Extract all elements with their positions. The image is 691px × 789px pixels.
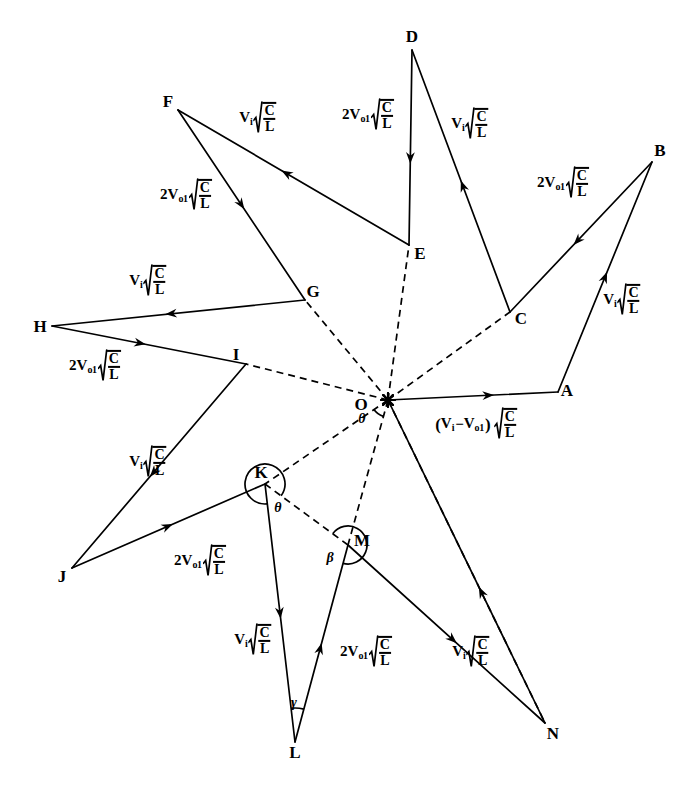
radical-c-over-l: CL xyxy=(144,446,167,478)
vector-edge-O-A xyxy=(388,392,558,400)
dashed-line-O-K xyxy=(265,400,388,484)
dashed-radial-lines xyxy=(246,245,545,723)
vertex-label-f: F xyxy=(163,93,173,110)
radical-c-over-l: CL xyxy=(494,408,517,440)
edge-label-lbl-bc: 2Vo1CL xyxy=(537,167,589,199)
edge-label-lbl-kl: ViCL xyxy=(234,624,271,656)
edge-label-lbl-mn: ViCL xyxy=(452,636,489,668)
subscript: i xyxy=(140,459,142,470)
vertex-label-b: B xyxy=(654,142,665,159)
coefficient-two_v_o1: 2Vo1 xyxy=(69,358,97,375)
radical-c-over-l: CL xyxy=(369,636,392,668)
vertex-label-n: N xyxy=(547,725,559,742)
radicand-denominator: L xyxy=(477,654,488,668)
term-vi: Vi xyxy=(441,416,454,433)
coefficient-two_v_o1: 2Vo1 xyxy=(174,553,202,570)
vertex-label-c: C xyxy=(515,310,527,327)
subscript: o1 xyxy=(178,192,187,203)
radical-sign-icon xyxy=(618,284,627,316)
coefficient-v_i: Vi xyxy=(452,644,465,661)
radicand-denominator: L xyxy=(379,654,390,668)
vertex-label-m: M xyxy=(354,532,370,549)
radical-sign-icon xyxy=(144,265,153,297)
vertex-label-k: K xyxy=(254,464,267,481)
vertex-label-d: D xyxy=(406,28,418,45)
vector-edge-G-H xyxy=(52,300,305,326)
radicand-numerator: C xyxy=(199,181,211,195)
arrowhead-H-I xyxy=(133,338,146,349)
radical-c-over-l: CL xyxy=(618,284,641,316)
radical-sign-icon xyxy=(254,102,263,134)
diagram-canvas: ABCDEFGHIJKLMNO θθβγ ViCL2Vo1CLViCL2Vo1C… xyxy=(0,0,691,789)
vector-edge-N-O xyxy=(388,400,545,723)
angle-label-beta-at-M: β xyxy=(326,551,333,565)
angle-label-gamma-at-L: γ xyxy=(291,696,297,710)
radical-c-over-l: CL xyxy=(144,265,167,297)
arrowhead-E-F xyxy=(279,167,293,180)
coefficient-two_v_o1: 2Vo1 xyxy=(160,187,188,204)
radical-c-over-l: CL xyxy=(249,624,272,656)
radicand-denominator: L xyxy=(504,426,515,440)
radicand-denominator: L xyxy=(108,368,119,382)
vertex-label-g: G xyxy=(306,283,319,300)
vertex-label-a: A xyxy=(561,382,573,399)
vertex-label-l: L xyxy=(289,744,300,761)
radicand-numerator: C xyxy=(213,547,225,561)
radicand-numerator: C xyxy=(477,638,489,652)
coefficient-v_i: Vi xyxy=(129,454,142,471)
radicand-numerator: C xyxy=(379,638,391,652)
coefficient-two_v_o1: 2Vo1 xyxy=(537,175,565,192)
arc-theta-center xyxy=(374,410,384,417)
radical-c-over-l: CL xyxy=(189,179,212,211)
subscript: i xyxy=(614,297,616,308)
radical-c-over-l: CL xyxy=(566,167,589,199)
center-point-marker xyxy=(381,393,395,407)
radicand-numerator: C xyxy=(154,267,166,281)
radical-sign-icon xyxy=(371,99,380,131)
angle-label-theta-at-K: θ xyxy=(274,501,281,515)
center-dot xyxy=(385,397,390,402)
radicand-numerator: C xyxy=(381,101,393,115)
vertex-label-i: I xyxy=(233,346,240,363)
radical-c-over-l: CL xyxy=(467,636,490,668)
radical-sign-icon xyxy=(369,636,378,668)
radicand-denominator: L xyxy=(213,563,224,577)
vertex-label-j: J xyxy=(58,568,67,585)
arrowhead-A-B xyxy=(599,270,612,284)
radical-sign-icon xyxy=(467,636,476,668)
radical-c-over-l: CL xyxy=(254,102,277,134)
minus-operator: − xyxy=(455,417,464,432)
coefficient-v_i: Vi xyxy=(129,273,142,290)
dashed-line-O-E xyxy=(388,245,409,400)
vertex-label-h: H xyxy=(33,318,46,335)
arrowhead-L-M xyxy=(314,642,326,655)
radicand-denominator: L xyxy=(476,126,487,140)
edge-label-lbl-cd: ViCL xyxy=(451,108,488,140)
edge-label-lbl-ij: ViCL xyxy=(129,446,166,478)
radicand-numerator: C xyxy=(504,410,516,424)
radicand-denominator: L xyxy=(154,283,165,297)
radical-sign-icon xyxy=(189,179,198,211)
radical-c-over-l: CL xyxy=(371,99,394,131)
coefficient-v_i: Vi xyxy=(234,632,247,649)
edge-label-lbl-lm: 2Vo1CL xyxy=(340,636,392,668)
subscript: o1 xyxy=(358,649,367,660)
coefficient-v_i: Vi xyxy=(603,292,616,309)
radicand-numerator: C xyxy=(108,352,120,366)
radicand-denominator: L xyxy=(259,642,270,656)
term-vo1: Vo1 xyxy=(464,416,484,433)
radicand-denominator: L xyxy=(199,197,210,211)
radical-sign-icon xyxy=(98,350,107,382)
vector-edge-D-E xyxy=(409,50,412,245)
radicand-numerator: C xyxy=(628,286,640,300)
subscript: i xyxy=(463,649,465,660)
edge-label-lbl-oa: (Vi − Vo1) CL xyxy=(435,408,517,440)
radicand-denominator: L xyxy=(264,120,275,134)
dashed-line-O-C xyxy=(388,312,510,400)
radical-sign-icon xyxy=(566,167,575,199)
radicand-denominator: L xyxy=(628,302,639,316)
radicand-denominator: L xyxy=(154,464,165,478)
edge-arrowheads xyxy=(133,152,611,655)
dashed-line-O-M xyxy=(348,400,388,545)
radical-c-over-l: CL xyxy=(98,350,121,382)
